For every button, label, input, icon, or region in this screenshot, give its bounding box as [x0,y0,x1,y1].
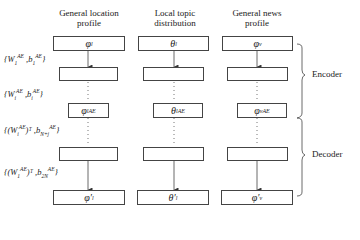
subscript: 2N [41,173,47,179]
subscript: 1 [17,173,20,179]
superscript: AE [48,166,55,172]
input-box-location: φl [53,36,125,51]
box-symbol: φ′ [84,192,92,203]
brace: } [42,54,45,64]
decoder-hidden-box-location [59,147,118,161]
output-box-news: φ′v [221,190,293,205]
subscript: 1 [32,60,35,66]
brace: } [56,125,59,135]
output-box-location: φ′l [53,190,125,205]
param-label-layer-i: {WiAE ,biAE} [4,88,43,101]
weight-symbol: W [7,89,14,99]
box-subscript: l [92,195,94,201]
brace: } [40,89,43,99]
decoder-hidden-box-topic [143,147,204,161]
param-label-decoder-layer-j: {(WiAE)ᵀ ,bN+jAE} [4,124,59,137]
superscript: AE [49,124,56,130]
box-superscript: AE [88,108,95,114]
box-symbol: θ′ [169,192,176,203]
box-subscript: l [175,41,177,47]
box-subscript: v [259,41,262,47]
subscript: N+j [40,131,49,137]
encoder-label: Encoder [312,69,342,79]
encoder-hidden-box-topic [143,67,204,81]
input-box-topic: θl [138,36,209,51]
superscript: AE [33,88,40,94]
encoder-hidden-box-news [227,67,288,81]
subscript: 1 [15,60,18,66]
superscript: AE [16,88,23,94]
code-box-topic: θlAE [153,103,203,118]
superscript: AE [35,53,42,59]
brace: } [55,167,58,177]
box-subscript: v [260,195,263,201]
box-superscript: AE [262,108,269,114]
code-box-news: φvAE [237,103,287,118]
param-label-decoder-last: {(W1AE)ᵀ ,b2NAE} [4,166,58,179]
input-box-news: φv [222,36,293,51]
decoder-label: Decoder [312,149,342,159]
subscript: i [31,95,33,101]
param-label-layer1: {W1AE ,b1AE} [4,53,45,66]
superscript: AE [20,166,27,172]
superscript: AE [17,53,24,59]
superscript: AE [19,124,26,130]
box-superscript: AE [178,108,185,114]
output-box-topic: θ′l [137,190,209,205]
encoder-hidden-box-location [59,67,118,81]
box-subscript: l [91,41,93,47]
code-box-location: φlAE [68,103,109,118]
weight-symbol: W [7,54,14,64]
decoder-hidden-box-news [227,147,288,161]
subscript: i [15,95,17,101]
box-subscript: l [176,195,178,201]
box-symbol: φ′ [252,192,260,203]
subscript: i [17,131,19,137]
